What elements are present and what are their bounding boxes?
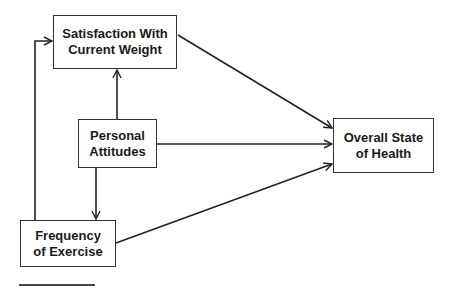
edge-exercise-to-health <box>116 164 332 243</box>
node-label: Frequency of Exercise <box>33 228 102 260</box>
node-satisfaction-with-current-weight: Satisfaction With Current Weight <box>53 15 177 69</box>
node-label: Personal Attitudes <box>89 128 145 160</box>
edge-satisfaction-to-health <box>178 35 332 128</box>
footnote-rule <box>19 284 95 286</box>
node-frequency-of-exercise: Frequency of Exercise <box>20 220 116 267</box>
edge-exercise-to-satisfaction <box>35 41 52 220</box>
node-label: Overall State of Health <box>344 130 424 162</box>
path-diagram: Satisfaction With Current Weight Persona… <box>0 0 454 288</box>
node-overall-state-of-health: Overall State of Health <box>333 118 434 173</box>
node-personal-attitudes: Personal Attitudes <box>78 119 157 168</box>
node-label: Satisfaction With Current Weight <box>62 26 167 58</box>
